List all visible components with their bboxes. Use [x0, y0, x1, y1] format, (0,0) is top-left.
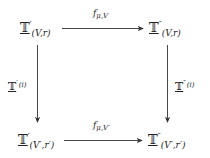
label-argument: (i)	[187, 81, 195, 89]
node-subscript: (V′,r′)	[30, 140, 55, 150]
left-arrow-label: 𝕋′(i)	[8, 80, 26, 92]
label-prime: ″	[183, 79, 186, 87]
node-subscript: (V,r)	[162, 28, 181, 38]
label-subscript: μ,V′	[96, 124, 109, 132]
node-top-left: 𝕋′(V,r)	[20, 20, 51, 38]
label-argument: (i)	[19, 81, 27, 89]
label-symbol: 𝕋	[175, 80, 183, 93]
node-symbol: 𝕋	[18, 132, 28, 147]
bottom-arrow-label: fμ,V′	[93, 121, 110, 132]
node-subscript: (V,r)	[32, 28, 51, 38]
label-prime: ′	[16, 79, 18, 87]
node-prime: ″	[158, 131, 161, 140]
node-subscript: (V′,r′)	[161, 140, 186, 150]
node-prime: ″	[159, 19, 162, 28]
node-top-right: 𝕋″(V,r)	[149, 20, 181, 38]
node-symbol: 𝕋	[20, 20, 30, 35]
node-symbol: 𝕋	[148, 132, 158, 147]
right-arrow-label: 𝕋″(i)	[175, 80, 195, 92]
label-subscript: μ,V	[96, 12, 108, 20]
label-symbol: 𝕋	[8, 80, 16, 93]
node-symbol: 𝕋	[149, 20, 159, 35]
node-prime: ′	[30, 19, 32, 28]
node-bottom-left: 𝕋′(V′,r′)	[18, 132, 54, 150]
node-bottom-right: 𝕋″(V′,r′)	[148, 132, 185, 150]
top-arrow-label: fμ,V	[93, 9, 108, 20]
node-prime: ′	[28, 131, 30, 140]
